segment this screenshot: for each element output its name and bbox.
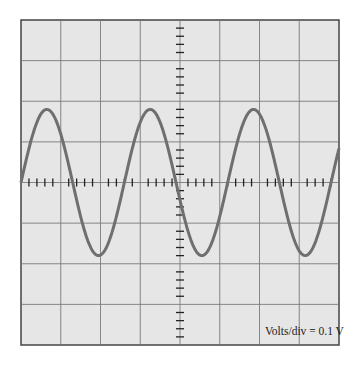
volts-per-div-label: Volts/div = 0.1 V: [265, 325, 335, 337]
oscilloscope-screen: [0, 0, 359, 368]
